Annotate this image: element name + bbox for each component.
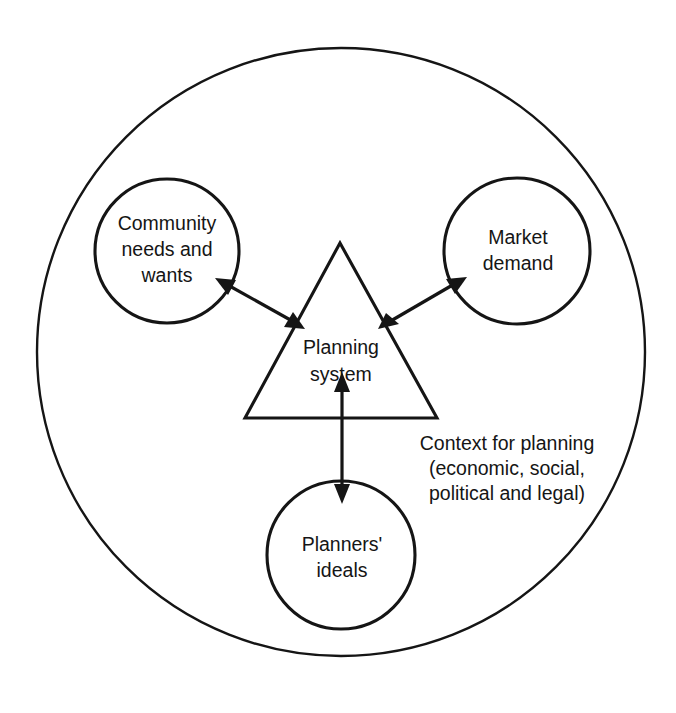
context-label-line-2: (economic, social, xyxy=(429,457,585,479)
connector-planners-planning xyxy=(334,372,350,504)
community-label-line-2: needs and xyxy=(121,238,212,260)
context-for-planning-label: Context for planning (economic, social, … xyxy=(420,432,595,504)
diagram-canvas: Community needs and wants Market demand … xyxy=(0,0,676,713)
connector-market-planning xyxy=(378,277,467,329)
arrowhead-toward-planners xyxy=(334,484,350,504)
community-label-line-3: wants xyxy=(141,264,193,286)
planning-system-diagram: Community needs and wants Market demand … xyxy=(0,0,676,713)
planning-system-label-line-2: system xyxy=(310,363,372,385)
market-label-line-1: Market xyxy=(488,226,548,248)
planners-label-line-1: Planners' xyxy=(302,533,383,555)
planning-system-label: Planning system xyxy=(303,336,379,385)
planners-label-line-2: ideals xyxy=(317,559,368,581)
market-demand-circle xyxy=(444,178,590,324)
market-label-line-2: demand xyxy=(483,252,553,274)
context-label-line-1: Context for planning xyxy=(420,432,595,454)
community-label-line-1: Community xyxy=(118,212,217,234)
context-label-line-3: political and legal) xyxy=(429,482,585,504)
community-needs-label: Community needs and wants xyxy=(118,212,217,286)
connector-community-planning xyxy=(215,278,305,329)
planners-ideals-label: Planners' ideals xyxy=(302,533,383,581)
market-demand-label: Market demand xyxy=(483,226,553,274)
planning-system-label-line-1: Planning xyxy=(303,336,379,358)
